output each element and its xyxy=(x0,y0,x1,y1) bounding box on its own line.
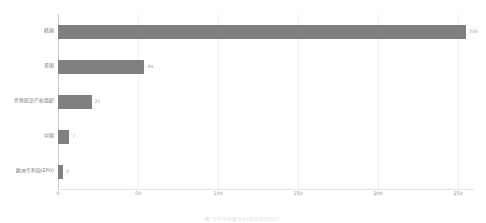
bar-row: 54 xyxy=(58,49,474,84)
bar-value-label: 7 xyxy=(72,135,75,140)
category-label: 欧洲专利局(EPO) xyxy=(0,169,54,174)
bar-row: 3 xyxy=(58,155,474,190)
chart-caption: 图 专利申请量排名(按受理局统计) xyxy=(0,217,486,222)
x-tick-label: 250 xyxy=(453,192,462,197)
x-tick-label: 0 xyxy=(56,192,59,197)
x-tick-label: 50 xyxy=(135,192,141,197)
bar-value-label: 54 xyxy=(147,64,153,69)
bar[interactable]: 54 xyxy=(58,60,144,74)
bar-value-label: 255 xyxy=(469,29,478,34)
x-tick-label: 200 xyxy=(373,192,382,197)
bar[interactable]: 255 xyxy=(58,25,466,39)
bar-chart: 韩国 美国 世界知识产权组织 中国 欧洲专利局(EPO) 255 54 21 xyxy=(0,0,486,223)
category-label: 世界知识产权组织 xyxy=(0,99,54,104)
bar-row: 7 xyxy=(58,120,474,155)
bar[interactable]: 3 xyxy=(58,165,63,179)
x-tick-label: 150 xyxy=(293,192,302,197)
category-label: 韩国 xyxy=(0,29,54,34)
bar[interactable]: 7 xyxy=(58,130,69,144)
bar-value-label: 21 xyxy=(95,100,101,105)
category-label: 中国 xyxy=(0,134,54,139)
bar-row: 21 xyxy=(58,84,474,119)
x-tick-label: 100 xyxy=(213,192,222,197)
bar[interactable]: 21 xyxy=(58,95,92,109)
bar-value-label: 3 xyxy=(66,170,69,175)
category-label: 美国 xyxy=(0,64,54,69)
plot-area: 255 54 21 7 3 0 50 100 150 200 xyxy=(58,14,474,190)
bar-row: 255 xyxy=(58,14,474,49)
